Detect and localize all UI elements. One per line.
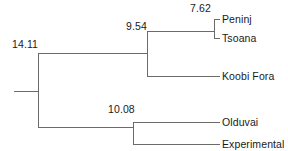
node-label-peninj-tsoana: 7.62	[190, 3, 211, 14]
taxon-label-peninj: Peninj	[222, 14, 252, 25]
phylogenetic-tree-figure: 14.11 9.54 7.62 10.08 Peninj Tsoana Koob…	[0, 0, 288, 151]
node-label-upper-clade: 9.54	[126, 21, 147, 32]
taxon-label-koobi-fora: Koobi Fora	[222, 71, 274, 82]
node-label-root: 14.11	[12, 39, 38, 50]
node-label-lower-clade: 10.08	[108, 104, 135, 115]
taxon-label-olduvai: Olduvai	[222, 117, 258, 128]
taxon-label-tsoana: Tsoana	[222, 33, 256, 44]
taxon-label-experimental: Experimental	[222, 139, 284, 150]
